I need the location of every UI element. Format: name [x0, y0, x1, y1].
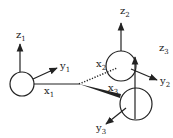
body-3-circle — [120, 88, 152, 120]
body-2-circle — [106, 51, 136, 81]
frames-diagram: z1 y1 x1 z2 x2 y2 z3 x3 y3 — [0, 0, 173, 138]
label-y3: y3 — [95, 122, 106, 136]
label-y2: y2 — [159, 75, 170, 89]
label-x1: x1 — [44, 85, 54, 99]
label-x2: x2 — [96, 58, 106, 72]
body-1-circle — [10, 72, 34, 96]
y3-axis-arrow — [106, 108, 126, 124]
label-z2: z2 — [120, 5, 130, 19]
label-z1: z1 — [16, 29, 26, 43]
label-y1: y1 — [59, 60, 70, 74]
label-z3: z3 — [159, 42, 169, 56]
y1-axis-arrow — [33, 68, 57, 79]
